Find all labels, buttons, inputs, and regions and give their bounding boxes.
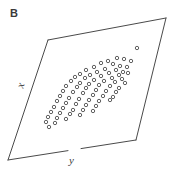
scatter-points-group — [44, 46, 138, 128]
scatter-point — [64, 84, 67, 87]
scatter-point — [84, 68, 87, 71]
scatter-point — [64, 101, 67, 104]
scatter-point — [108, 84, 111, 87]
scatter-point — [114, 68, 117, 71]
scatter-point — [53, 121, 56, 124]
scatter-point — [115, 56, 118, 59]
scatter-point — [123, 81, 126, 84]
scatter-point — [126, 71, 129, 74]
scatter-point — [99, 61, 102, 64]
scatter-point — [94, 88, 97, 91]
scatter-point — [77, 97, 80, 100]
scatter-point — [104, 89, 107, 92]
scatter-point — [92, 78, 95, 81]
scatter-point — [64, 117, 67, 120]
frame-bottom-edge-left — [8, 151, 68, 160]
scatter-point — [94, 104, 97, 107]
scatter-point — [129, 59, 132, 62]
scatter-point — [52, 105, 55, 108]
scatter-point — [71, 90, 74, 93]
scatter-point — [102, 79, 105, 82]
scatter-point — [92, 65, 95, 68]
scatter-point — [99, 74, 102, 77]
scatter-point — [83, 76, 86, 79]
scatter-point — [111, 95, 114, 98]
scatter-point — [68, 112, 71, 115]
frame-top-edge — [48, 18, 166, 40]
scatter-point — [107, 71, 110, 74]
scatter-point — [117, 86, 120, 89]
scatter-point — [44, 120, 47, 123]
scatter-point — [73, 75, 76, 78]
scatter-point — [46, 115, 49, 118]
scatter-point — [67, 96, 70, 99]
scatter-point — [84, 103, 87, 106]
scatter-point — [84, 86, 87, 89]
scatter-point — [113, 80, 116, 83]
scatter-point — [91, 93, 94, 96]
scatter-point — [61, 89, 64, 92]
scatter-point — [78, 72, 81, 75]
scatter-point — [101, 94, 104, 97]
scatter-point — [78, 81, 81, 84]
scatter-point — [58, 111, 61, 114]
scatter-point — [97, 99, 100, 102]
scatter-point — [58, 94, 61, 97]
scatter-point — [69, 79, 72, 82]
scatter-point — [49, 110, 52, 113]
scatter-point — [108, 98, 111, 101]
scatter-point — [120, 77, 123, 80]
scatter-point — [103, 67, 106, 70]
scatter-point — [47, 125, 50, 128]
scatter-point — [106, 59, 109, 62]
frame-left-edge — [8, 40, 48, 160]
scatter-point — [88, 73, 91, 76]
scatter-point — [78, 113, 81, 116]
scatter-point — [74, 102, 77, 105]
panel-letter: B — [10, 8, 18, 19]
scatter-point — [75, 85, 78, 88]
scatter-point — [71, 108, 74, 111]
scatter-point — [55, 116, 58, 119]
scatter-point — [61, 106, 64, 109]
scatter-point — [117, 73, 120, 76]
scatter-point — [95, 70, 98, 73]
frame-bottom-edge-right — [81, 140, 136, 149]
scatter-point — [122, 57, 125, 60]
scatter-point — [91, 109, 94, 112]
scatter-point — [118, 64, 121, 67]
scatter-point — [135, 46, 138, 49]
scatter-point — [121, 70, 124, 73]
scatter-point — [114, 90, 117, 93]
y-axis-label: y — [69, 155, 74, 166]
frame-right-edge — [136, 18, 166, 140]
scatter-point — [55, 99, 58, 102]
scatter-point — [97, 83, 100, 86]
figure-panel: B x y — [0, 0, 171, 174]
scatter-point — [87, 98, 90, 101]
scatter-point — [110, 76, 113, 79]
scatter-point — [125, 65, 128, 68]
scatter-point — [81, 108, 84, 111]
scatter-point — [87, 82, 90, 85]
scatter-point — [111, 62, 114, 65]
scatter-point — [81, 91, 84, 94]
